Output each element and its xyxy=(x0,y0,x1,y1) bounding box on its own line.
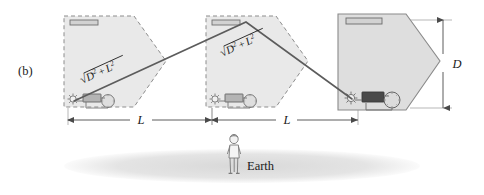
dimension-label-D: D xyxy=(451,57,461,71)
mirror-right xyxy=(346,18,382,24)
clock-middle xyxy=(244,95,257,108)
observer-torso xyxy=(229,145,239,158)
clock-left xyxy=(102,95,115,108)
panel-label: (b) xyxy=(18,64,33,78)
ship-hull-left xyxy=(64,16,166,107)
dimension-line-L2: L xyxy=(212,108,358,127)
dimension-label-L2: L xyxy=(283,113,291,127)
spaceship-right-solid xyxy=(338,14,440,110)
dimension-line-L1: L xyxy=(68,108,212,127)
mirror-left xyxy=(70,20,98,25)
light-source-middle xyxy=(210,94,221,105)
detector-right xyxy=(362,92,384,102)
detector-middle xyxy=(225,94,243,102)
spaceship-left-ghost xyxy=(64,16,166,108)
physics-figure-time-dilation: √D2+L2 √D2+L2 L L xyxy=(0,0,484,195)
mirror-middle xyxy=(212,20,240,25)
figure-canvas: √D2+L2 √D2+L2 L L xyxy=(0,0,484,195)
earth-surface-ellipse xyxy=(64,149,420,183)
dimension-label-L1: L xyxy=(137,113,145,127)
earth-label: Earth xyxy=(247,159,275,173)
